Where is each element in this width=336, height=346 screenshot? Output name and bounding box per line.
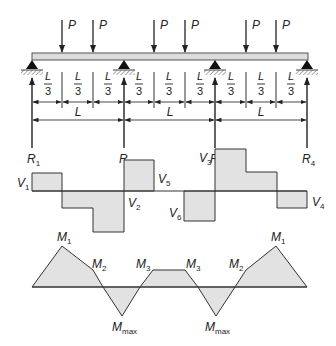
reaction-label-r4: R4 <box>302 152 316 168</box>
continuous-beam-diagram: P P P P P P <box>0 0 336 346</box>
svg-text:L: L <box>105 70 111 82</box>
fraction-label: L 3 <box>44 70 52 97</box>
beam-body <box>32 53 308 60</box>
moment-diagram: M1 M2 Mmax M3 M3 Mmax M2 M1 <box>32 230 307 336</box>
span-label-3: L <box>258 105 265 119</box>
fraction-label: L 3 <box>74 70 82 97</box>
moment-label-m3-left: M3 <box>136 257 151 273</box>
svg-text:L: L <box>166 70 172 82</box>
moment-label-m2-left: M2 <box>92 257 107 273</box>
svg-text:L: L <box>258 70 264 82</box>
moment-label-mmax-left: Mmax <box>112 320 137 336</box>
svg-text:3: 3 <box>166 85 172 97</box>
fraction-label: L 3 <box>257 70 265 97</box>
shear-label-v5: V5 <box>158 172 171 188</box>
fraction-label: L 3 <box>104 70 112 97</box>
moment-label-m1-left: M1 <box>57 230 72 246</box>
load-label: P <box>191 18 199 32</box>
reaction-label-r1: R1 <box>27 152 41 168</box>
span-label-2: L <box>167 105 174 119</box>
svg-text:3: 3 <box>197 85 203 97</box>
svg-text:3: 3 <box>136 85 142 97</box>
shear-label-v2: V2 <box>128 196 141 212</box>
svg-text:3: 3 <box>288 85 294 97</box>
beam <box>32 53 308 60</box>
load-label: P <box>160 18 168 32</box>
svg-text:3: 3 <box>75 85 81 97</box>
fraction-label: L 3 <box>135 70 143 97</box>
fraction-label: L 3 <box>227 70 235 97</box>
third-span-labels: L 3 L 3 L 3 L 3 L 3 L 3 L <box>44 70 295 97</box>
load-label: P <box>68 18 76 32</box>
moment-label-m1-right: M1 <box>271 230 286 246</box>
support-3 <box>204 60 226 75</box>
svg-text:3: 3 <box>228 85 234 97</box>
shear-diagram: V1 V2 V3 V4 V5 V6 <box>17 149 325 232</box>
svg-text:3: 3 <box>105 85 111 97</box>
svg-text:L: L <box>197 70 203 82</box>
load-label: P <box>99 18 107 32</box>
shear-label-v1: V1 <box>17 176 30 192</box>
load-arrow-5: P <box>246 18 260 52</box>
load-label: P <box>252 18 260 32</box>
load-arrow-4: P <box>185 18 199 52</box>
support-2 <box>113 60 135 75</box>
svg-text:L: L <box>45 70 51 82</box>
moment-label-m2-right: M2 <box>229 257 244 273</box>
svg-text:L: L <box>136 70 142 82</box>
svg-text:3: 3 <box>45 85 51 97</box>
svg-text:3: 3 <box>258 85 264 97</box>
load-arrow-1: P <box>62 18 76 52</box>
fraction-label: L 3 <box>196 70 204 97</box>
span-labels: L L L <box>75 105 265 119</box>
support-4 <box>296 60 318 75</box>
fraction-label: L 3 <box>165 70 173 97</box>
shear-label-v6: V6 <box>169 206 182 222</box>
moment-label-mmax-right: Mmax <box>205 320 230 336</box>
load-arrow-3: P <box>154 18 168 52</box>
fraction-label: L 3 <box>287 70 295 97</box>
svg-text:L: L <box>228 70 234 82</box>
support-1 <box>21 60 43 75</box>
span-label-1: L <box>75 105 82 119</box>
svg-text:L: L <box>288 70 294 82</box>
load-label: P <box>282 18 290 32</box>
load-arrow-6: P <box>276 18 290 52</box>
svg-text:L: L <box>75 70 81 82</box>
point-loads: P P P P P P <box>62 18 290 52</box>
shear-label-v4: V4 <box>312 195 325 211</box>
moment-label-m3-right: M3 <box>186 257 201 273</box>
load-arrow-2: P <box>93 18 107 52</box>
